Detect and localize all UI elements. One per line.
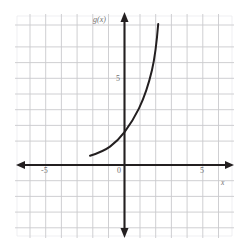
- y-tick-label-5: 5: [116, 75, 120, 83]
- y-axis-bottom-arrow: [121, 228, 129, 238]
- x-axis-label: x: [221, 179, 224, 187]
- x-tick-label-neg5: -5: [41, 167, 48, 175]
- coordinate-plane: [0, 0, 251, 251]
- x-tick-label-5: 5: [200, 167, 204, 175]
- y-axis-top-arrow: [121, 12, 129, 22]
- graph-screenshot: g(x) 5 -5 0 5 x: [0, 0, 251, 251]
- x-axis-right-arrow: [225, 161, 234, 169]
- x-tick-label-0: 0: [117, 167, 121, 175]
- function-label-gx: g(x): [93, 16, 106, 24]
